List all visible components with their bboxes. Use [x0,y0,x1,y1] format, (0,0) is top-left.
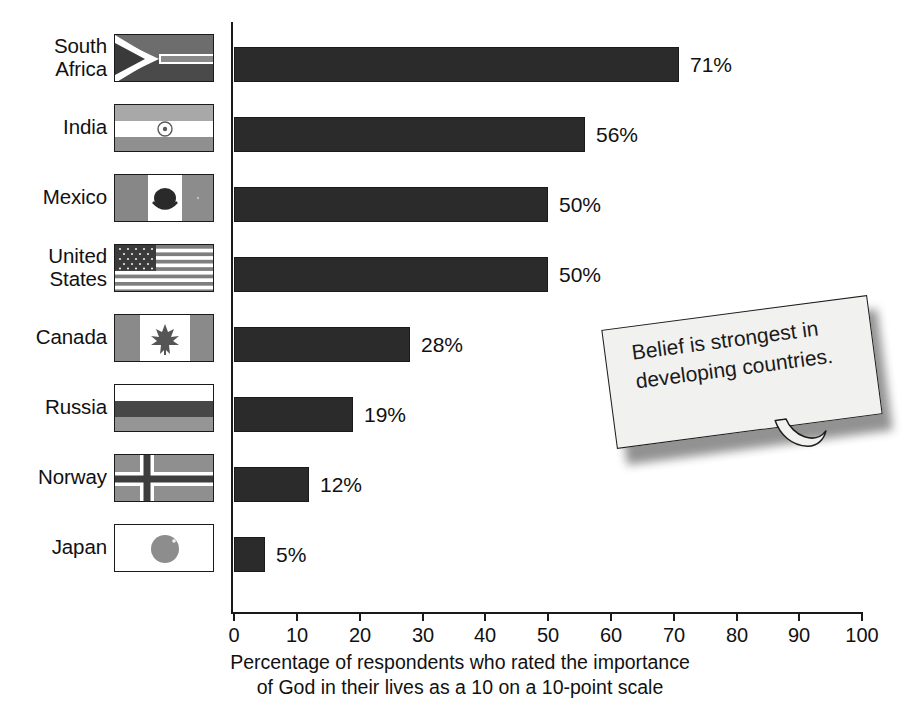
table-row: India 56% [0,90,917,160]
flag-japan-icon [114,524,214,572]
x-tick-40 [484,612,486,621]
x-tick-10 [296,612,298,621]
x-tick-50 [547,612,549,621]
x-tick-label-40: 40 [455,623,515,647]
bar-value-japan: 5% [276,537,306,572]
x-tick-100 [861,612,863,621]
x-tick-label-90: 90 [769,623,829,647]
bar-value-south-africa: 71% [690,47,732,82]
country-label-india: India [0,115,107,138]
bar-japan [234,537,265,572]
bar-chart: South Africa 71% India [0,0,917,712]
x-axis-caption: Percentage of respondents who rated the … [180,650,740,700]
flag-south-africa-icon [114,34,214,82]
x-tick-30 [422,612,424,621]
country-label-japan: Japan [0,535,107,558]
flag-canada-icon [114,314,214,362]
country-label-russia: Russia [0,395,107,418]
x-tick-20 [359,612,361,621]
x-tick-90 [798,612,800,621]
table-row: Japan 5% [0,510,917,580]
x-tick-60 [610,612,612,621]
bar-value-canada: 28% [421,327,463,362]
x-tick-label-80: 80 [707,623,767,647]
flag-india-icon [114,104,214,152]
bar-value-norway: 12% [320,467,362,502]
flag-norway-icon [114,454,214,502]
x-tick-label-70: 70 [644,623,704,647]
bar-canada [234,327,410,362]
bar-norway [234,467,309,502]
bar-united-states [234,257,548,292]
x-tick-label-60: 60 [581,623,641,647]
x-tick-80 [736,612,738,621]
bar-value-india: 56% [596,117,638,152]
bar-india [234,117,585,152]
y-axis-line [231,22,233,614]
flag-mexico-icon [114,174,214,222]
x-tick-label-20: 20 [330,623,390,647]
country-label-mexico: Mexico [0,185,107,208]
x-tick-label-10: 10 [267,623,327,647]
x-tick-label-50: 50 [518,623,578,647]
bar-south-africa [234,47,679,82]
flag-united-states-icon [114,244,214,292]
callout-curl-icon [774,413,830,453]
x-tick-70 [673,612,675,621]
bar-russia [234,397,353,432]
x-tick-0 [233,612,235,621]
bar-value-united-states: 50% [559,257,601,292]
country-label-south-africa: South Africa [0,34,107,80]
x-tick-label-30: 30 [393,623,453,647]
table-row: South Africa 71% [0,20,917,90]
bar-value-mexico: 50% [559,187,601,222]
x-tick-label-100: 100 [832,623,892,647]
bar-mexico [234,187,548,222]
country-label-norway: Norway [0,465,107,488]
table-row: United States [0,230,917,300]
country-label-canada: Canada [0,325,107,348]
bar-value-russia: 19% [364,397,406,432]
flag-russia-icon [114,384,214,432]
table-row: Mexico 50% [0,160,917,230]
country-label-united-states: United States [0,244,107,290]
callout-note: Belief is strongest in developing countr… [608,312,880,440]
x-tick-label-0: 0 [204,623,264,647]
